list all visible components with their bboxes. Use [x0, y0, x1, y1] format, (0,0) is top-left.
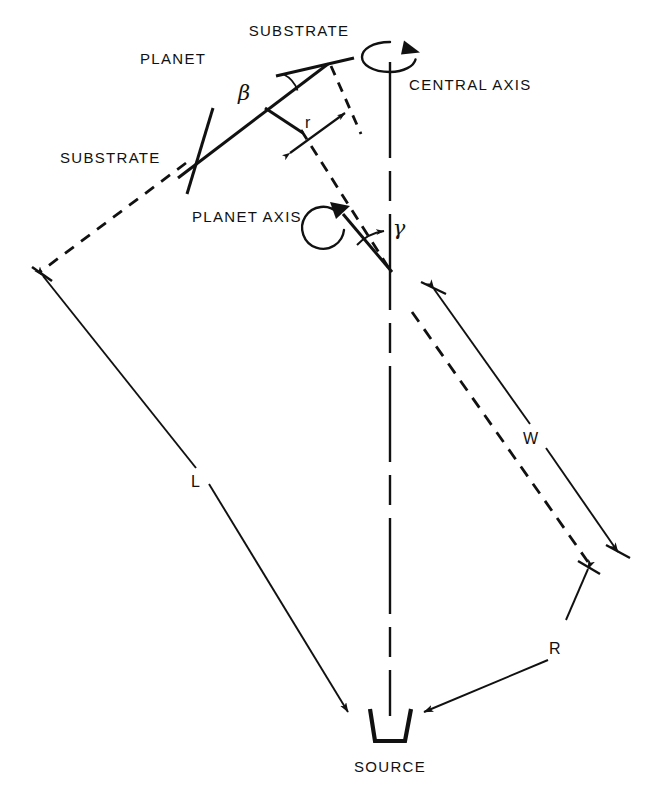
substrate-left-dashed-line	[40, 163, 186, 272]
planet-bar	[187, 108, 213, 194]
substrate-top-label: SUBSTRATE	[249, 22, 350, 39]
beta-angle-label: β	[237, 81, 250, 105]
substrate-left-label: SUBSTRATE	[60, 149, 161, 166]
planetary-deposition-diagram: r L W R SUBSTRATE PLANET S	[0, 0, 667, 788]
planet-label: PLANET	[140, 50, 206, 67]
planet-axis-rotation-icon	[302, 202, 350, 249]
W-dashed-line	[412, 312, 588, 562]
central-axis-label: CENTRAL AXIS	[409, 76, 532, 93]
r-dimension-arrow	[290, 113, 345, 153]
W-dimension-label: W	[523, 430, 539, 447]
R-dimension-line	[424, 561, 600, 712]
r-dimension-label: r	[305, 114, 311, 131]
planet-axis-label: PLANET AXIS	[192, 208, 302, 225]
planet-axis-dashed-line	[301, 130, 390, 270]
W-dimension-line	[421, 282, 630, 558]
gamma-angle-label: γ	[393, 216, 406, 240]
source-label: SOURCE	[354, 758, 426, 775]
substrate-dashed-upper	[331, 66, 361, 134]
diagram-canvas: r L W R SUBSTRATE PLANET S	[0, 0, 667, 788]
R-dimension-label: R	[549, 640, 561, 657]
L-dimension-label: L	[191, 473, 200, 490]
L-dimension-line	[32, 267, 348, 712]
